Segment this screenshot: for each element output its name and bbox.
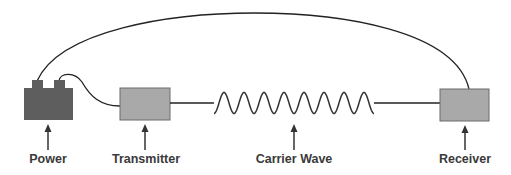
signal-transmission-diagram <box>0 0 511 175</box>
return-arc-wire <box>37 13 469 89</box>
transmitter-arrow-icon <box>142 124 149 150</box>
receiver-label: Receiver <box>439 152 491 166</box>
carrier-wave-icon <box>214 93 374 114</box>
transmitter-label: Transmitter <box>112 152 180 166</box>
power-battery-icon <box>24 80 73 120</box>
receiver-arrow-icon <box>462 125 469 150</box>
power-label: Power <box>29 152 67 166</box>
carrier-wave-label: Carrier Wave <box>256 152 333 166</box>
carrier-wave-arrow-icon <box>291 124 298 150</box>
transmitter-box <box>120 88 170 120</box>
power-arrow-icon <box>45 124 52 150</box>
receiver-box <box>440 89 489 121</box>
